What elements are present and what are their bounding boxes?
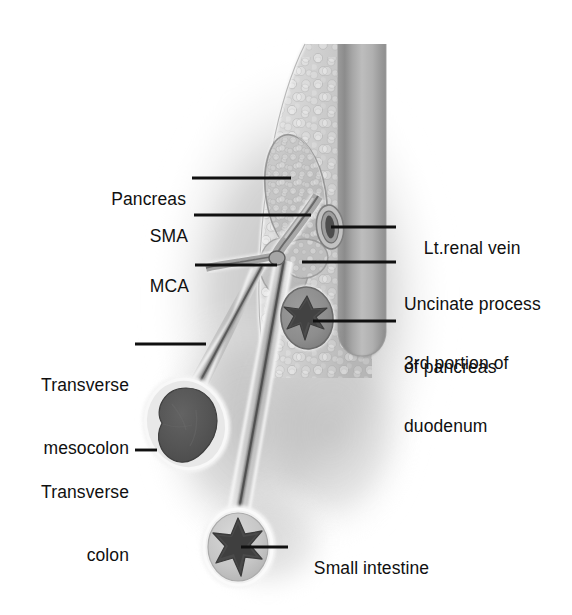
label-third-portion-duodenum-line-1: 3rd portion of — [404, 353, 509, 374]
label-transverse-mesocolon-line-1: Transverse — [0, 375, 129, 396]
label-transverse-colon-line-1: Transverse — [0, 482, 129, 503]
label-mca: MCA — [0, 255, 189, 318]
anatomy-figure: Pancreas SMA MCA Transverse mesocolon Tr… — [0, 0, 572, 615]
label-transverse-colon: Transverse colon — [0, 440, 129, 608]
label-sma-line-1: SMA — [150, 226, 188, 246]
great-vessel-column — [338, 44, 386, 357]
label-mca-line-1: MCA — [150, 276, 189, 296]
label-small-intestine-line-1: Small intestine — [314, 558, 429, 578]
label-transverse-colon-line-2: colon — [0, 545, 129, 566]
label-third-portion-duodenum-line-2: duodenum — [404, 416, 509, 437]
label-small-intestine: Small intestine — [294, 537, 429, 600]
label-third-portion-duodenum: 3rd portion of duodenum — [404, 311, 509, 479]
